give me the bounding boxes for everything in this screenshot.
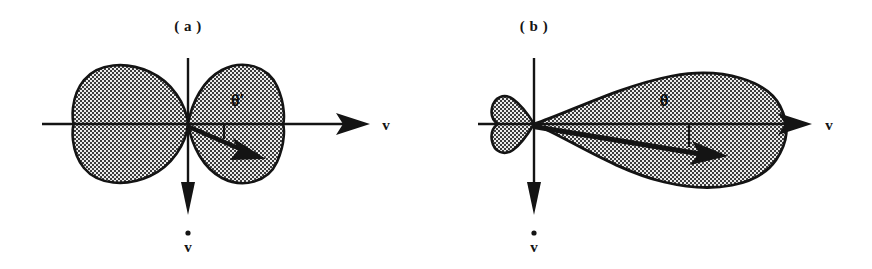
radiation-pattern-figure: ( a ) θ′ v bbox=[0, 0, 872, 269]
panel-a-vdot-dot bbox=[185, 230, 190, 235]
panel-b-velocity-label: v bbox=[825, 117, 833, 133]
panel-a-angle-label: θ′ bbox=[231, 92, 244, 109]
panel-b-caption: ( b ) bbox=[520, 18, 548, 35]
panel-a-vdot-label: v bbox=[184, 239, 192, 255]
figure-root: ( a ) θ′ v bbox=[0, 0, 872, 269]
panel-a-caption: ( a ) bbox=[174, 18, 202, 35]
panel-b-angle-label: θ bbox=[660, 92, 669, 109]
panel-b-vdot-label: v bbox=[530, 239, 538, 255]
panel-a-velocity-label: v bbox=[382, 117, 390, 133]
panel-b-vdot-dot bbox=[531, 230, 536, 235]
